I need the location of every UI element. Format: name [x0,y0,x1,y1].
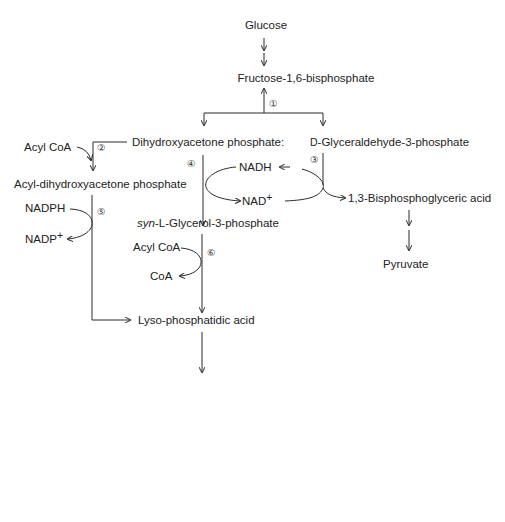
cofactor-acyl-coa-2: Acyl CoA [24,141,72,153]
cofactor-nadp: NADP+ [25,229,63,245]
cofactor-acyl-coa-6: Acyl CoA [133,241,181,253]
compound-bpg: 1,3-Bisphosphoglyceric acid [348,192,491,204]
cofactor-nad: NAD+ [242,191,272,207]
cofactor-nadh: NADH [239,161,272,173]
curve-nad-return [285,169,323,201]
compound-glucose: Glucose [245,19,287,31]
arrow-to-bpg [323,188,345,198]
compound-pyruvate: Pyruvate [383,258,428,270]
compound-acyl-dhap: Acyl-dihydroxyacetone phosphate [14,178,187,190]
step-6-marker: ⑥ [207,247,216,258]
glycerol3p-name: -L-Glycerol-3-phosphate [155,217,279,229]
compound-glycerol-3-phosphate: syn-L-Glycerol-3-phosphate [137,217,279,229]
compound-fructose-bisphosphate: Fructose-1,6-bisphosphate [238,72,375,84]
compound-g3p: D-Glyceraldehyde-3-phosphate [310,136,469,148]
arrow-acyl-coa-6-to-coa [180,248,201,276]
compound-lyso-phosphatidic-acid: Lyso-phosphatidic acid [138,314,255,326]
nadp-text: NADP [25,233,57,245]
cofactor-coa-6: CoA [150,270,173,282]
step-1-marker: ① [269,98,278,109]
step-3-marker: ③ [310,154,319,165]
compound-dhap: Dihydroxyacetone phosphate: [132,136,284,148]
g3p-name: -Glyceraldehyde-3-phosphate [318,136,470,148]
arrow-nadph-to-nadp [68,209,92,239]
triacylglycerol-synthesis-pathway: Glucose Fructose-1,6-bisphosphate ① Dihy… [0,0,505,522]
arrow-nadh-to-nad [206,167,240,201]
step-4-marker: ④ [187,158,196,169]
step-5-marker: ⑤ [97,206,106,217]
glycerol3p-syn-prefix: syn [137,217,155,229]
arrow-acyl-coa-2-in [77,147,91,160]
cofactor-nadph: NADPH [25,202,65,214]
step-2-marker: ② [97,142,106,153]
